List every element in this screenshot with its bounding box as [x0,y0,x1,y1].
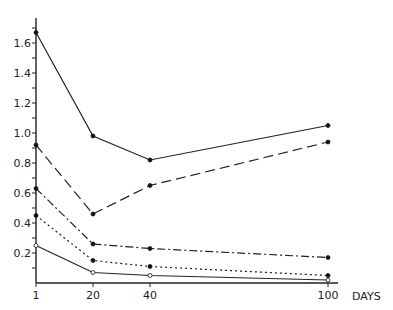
x-tick-label: 100 [318,289,339,302]
series-line [36,33,328,161]
axes: 0.20.40.60.81.01.21.41.612040100 [14,18,339,302]
x-tick-label: 40 [143,289,157,302]
x-tick-label: 1 [33,289,40,302]
x-tick-label: 20 [86,289,100,302]
data-point [91,212,95,216]
data-point [91,259,95,263]
y-tick-label: 0.6 [14,187,32,200]
data-point [326,256,330,260]
data-point [148,158,152,162]
data-point [326,124,330,128]
y-tick-label: 0.2 [14,247,32,260]
y-tick-label: 1.0 [14,127,32,140]
series-line [36,142,328,214]
data-point [34,187,38,191]
series-lines [34,31,330,283]
data-point [148,274,152,278]
y-tick-label: 1.4 [14,67,32,80]
data-point [34,214,38,218]
data-point [148,265,152,269]
data-point [148,184,152,188]
data-point [91,242,95,246]
x-axis-label: DAYS [352,290,381,303]
data-point [148,247,152,251]
data-point [91,271,95,275]
data-point [326,140,330,144]
y-tick-label: 1.2 [14,97,32,110]
data-point [326,274,330,278]
data-point [34,143,38,147]
y-tick-label: 1.6 [14,37,32,50]
data-point [91,134,95,138]
y-tick-label: 0.8 [14,157,32,170]
y-tick-label: 0.4 [14,217,32,230]
data-point [326,278,330,282]
line-chart: 0.20.40.60.81.01.21.41.612040100 DAYS [0,0,393,310]
data-point [34,31,38,35]
data-point [34,244,38,248]
